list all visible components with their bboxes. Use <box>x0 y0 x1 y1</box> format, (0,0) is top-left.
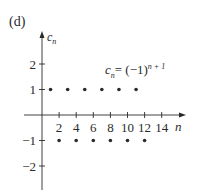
x-tick-label: 6 <box>90 120 97 135</box>
data-point <box>74 139 78 143</box>
data-point <box>100 88 104 92</box>
data-point <box>134 88 138 92</box>
y-tick-label: −1 <box>22 133 36 148</box>
y-axis-label: cn <box>47 31 56 46</box>
x-tick-label: 4 <box>73 120 80 135</box>
formula-annotation: cn= (−1)n + 1 <box>105 63 165 80</box>
x-tick-label: 8 <box>107 120 114 135</box>
x-axis-arrow-icon <box>179 113 186 118</box>
x-tick-label: 10 <box>121 120 134 135</box>
data-point <box>109 139 113 143</box>
data-point <box>49 88 53 92</box>
x-axis-label: n <box>175 120 182 133</box>
scatter-plot: 2468101214−2−112 <box>0 0 197 194</box>
x-tick-label: 14 <box>155 120 169 135</box>
x-tick-label: 12 <box>138 120 151 135</box>
data-point <box>143 139 147 143</box>
data-point <box>66 88 70 92</box>
data-point <box>117 88 121 92</box>
y-tick-label: 1 <box>30 82 37 97</box>
data-point <box>83 88 87 92</box>
data-point <box>92 139 96 143</box>
y-tick-label: −2 <box>22 159 36 174</box>
data-point <box>126 139 130 143</box>
data-point <box>57 139 61 143</box>
x-tick-label: 2 <box>56 120 63 135</box>
y-axis-arrow-icon <box>40 31 45 38</box>
y-tick-label: 2 <box>30 57 37 72</box>
